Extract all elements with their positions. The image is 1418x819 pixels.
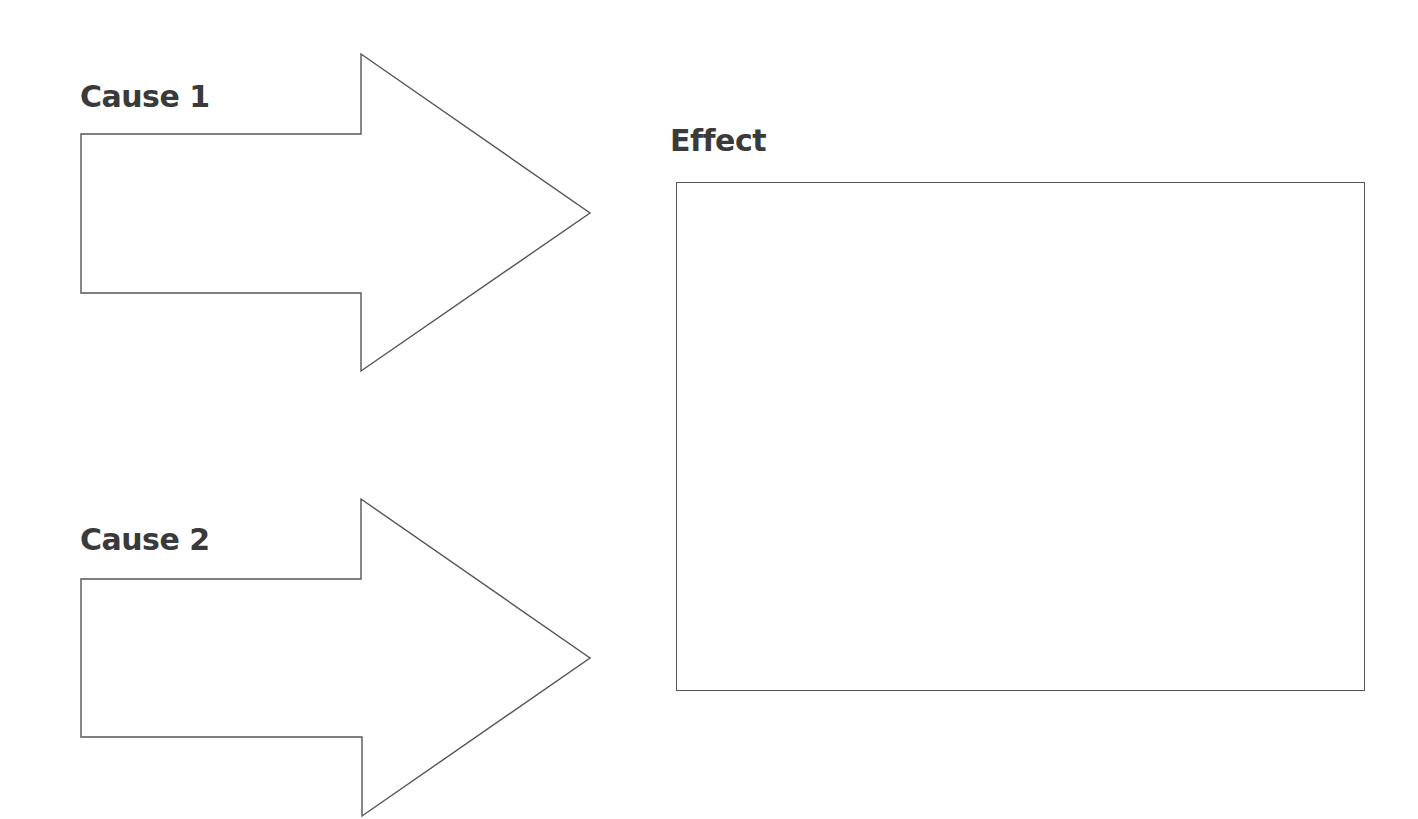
cause-1-label: Cause 1: [80, 82, 210, 112]
cause-2-label: Cause 2: [80, 525, 210, 555]
effect-box[interactable]: [676, 182, 1365, 691]
cause-effect-diagram: Cause 1 Cause 2 Effect: [0, 0, 1418, 819]
effect-label: Effect: [670, 126, 766, 156]
